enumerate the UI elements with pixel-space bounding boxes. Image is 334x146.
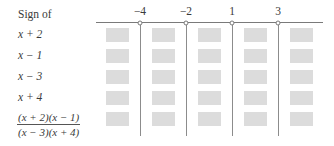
sign-box[interactable] — [290, 91, 313, 105]
divider-line-3 — [278, 23, 280, 136]
sign-box[interactable] — [106, 91, 129, 105]
fraction-denominator: (x − 3)(x + 4) — [17, 125, 80, 138]
sign-box[interactable] — [198, 49, 221, 63]
sign-box[interactable] — [152, 70, 175, 84]
row-label-rational-expression: (x + 2)(x − 1) (x − 3)(x + 4) — [17, 111, 80, 138]
tick-label-neg4: −4 — [134, 5, 146, 17]
sign-box[interactable] — [152, 112, 175, 126]
open-circle-neg2 — [184, 20, 189, 25]
tick-label-neg2: −2 — [180, 5, 192, 17]
open-circle-neg4 — [138, 20, 143, 25]
number-line-axis — [96, 22, 323, 23]
sign-box[interactable] — [290, 70, 313, 84]
tick-label-1: 1 — [229, 5, 235, 17]
open-circle-3 — [276, 20, 281, 25]
sign-box[interactable] — [290, 112, 313, 126]
sign-box[interactable] — [244, 112, 267, 126]
sign-box[interactable] — [244, 28, 267, 42]
sign-box[interactable] — [106, 70, 129, 84]
sign-box[interactable] — [198, 112, 221, 126]
sign-box[interactable] — [152, 49, 175, 63]
divider-line-1 — [232, 23, 234, 136]
sign-box[interactable] — [106, 49, 129, 63]
sign-box[interactable] — [198, 28, 221, 42]
row-label-x-plus-2: x + 2 — [18, 28, 42, 40]
open-circle-1 — [230, 20, 235, 25]
row-label-x-minus-3: x − 3 — [18, 70, 42, 82]
fraction-numerator: (x + 2)(x − 1) — [17, 111, 80, 125]
sign-box[interactable] — [198, 70, 221, 84]
sign-box[interactable] — [198, 91, 221, 105]
sign-box[interactable] — [290, 28, 313, 42]
row-label-x-minus-1: x − 1 — [18, 49, 42, 61]
divider-line-neg2 — [186, 23, 188, 136]
sign-box[interactable] — [152, 91, 175, 105]
sign-box[interactable] — [244, 49, 267, 63]
row-label-x-plus-4: x + 4 — [18, 91, 42, 103]
sign-box[interactable] — [106, 28, 129, 42]
sign-box[interactable] — [106, 112, 129, 126]
sign-box[interactable] — [152, 28, 175, 42]
sign-box[interactable] — [244, 70, 267, 84]
divider-line-neg4 — [140, 23, 142, 136]
sign-box[interactable] — [244, 91, 267, 105]
sign-box[interactable] — [290, 49, 313, 63]
tick-label-3: 3 — [275, 5, 281, 17]
sign-of-header: Sign of — [18, 8, 52, 20]
